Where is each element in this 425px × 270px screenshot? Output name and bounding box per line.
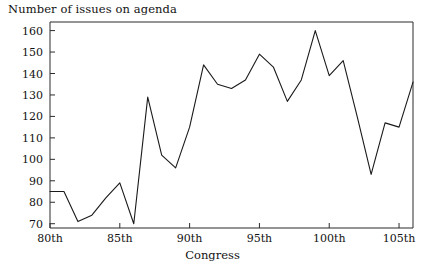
x-tick-label: 105th xyxy=(383,232,416,245)
line-chart-plot: 708090100110120130140150160 80th85th90th… xyxy=(0,0,425,270)
x-axis-tick-labels: 80th85th90th95th100th105th xyxy=(37,232,415,245)
x-tick-label: 100th xyxy=(313,232,346,245)
y-axis-tick-labels: 708090100110120130140150160 xyxy=(22,25,43,231)
x-tick-label: 90th xyxy=(177,232,203,245)
x-axis-title: Congress xyxy=(0,248,425,262)
y-tick-label: 140 xyxy=(22,68,43,81)
y-tick-label: 160 xyxy=(22,25,43,38)
y-tick-label: 120 xyxy=(22,110,43,123)
y-tick-label: 100 xyxy=(22,153,43,166)
x-tick-label: 95th xyxy=(247,232,273,245)
y-axis-ticks xyxy=(50,31,55,224)
chart-figure: Number of issues on agenda 7080901001101… xyxy=(0,0,425,270)
x-tick-label: 80th xyxy=(37,232,63,245)
y-tick-label: 130 xyxy=(22,89,43,102)
y-tick-label: 150 xyxy=(22,46,43,59)
y-tick-label: 90 xyxy=(29,175,43,188)
x-tick-label: 85th xyxy=(107,232,133,245)
y-tick-label: 80 xyxy=(29,196,43,209)
x-axis-ticks xyxy=(50,223,399,228)
axis-frame xyxy=(50,22,413,228)
y-tick-label: 70 xyxy=(29,218,43,231)
y-tick-label: 110 xyxy=(22,132,43,145)
data-series-line xyxy=(50,31,413,224)
